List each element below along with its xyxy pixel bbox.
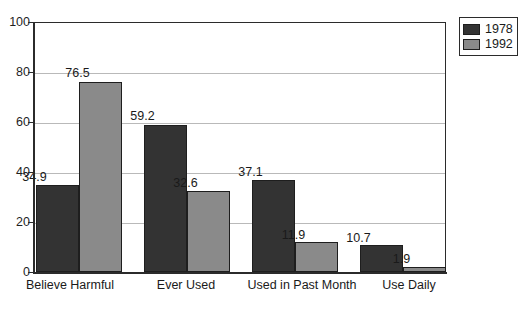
bar-ever-used-1978[interactable] <box>144 125 187 272</box>
x-axis-line <box>33 272 447 274</box>
bar-value-believe-harmful-1992: 76.5 <box>56 67 99 79</box>
y-axis: 100 80 60 40 20 0 <box>0 0 30 313</box>
bar-value-ever-used-1978: 59.2 <box>121 110 164 122</box>
bar-believe-harmful-1978[interactable] <box>36 185 79 272</box>
y-tick-label-80: 80 <box>4 66 30 78</box>
bar-value-used-in-past-month-1978: 37.1 <box>229 166 272 178</box>
y-tick-label-20: 20 <box>4 216 30 228</box>
bar-believe-harmful-1992[interactable] <box>79 82 122 272</box>
y-tick-label-100: 100 <box>4 16 30 28</box>
bar-used-in-past-month-1992[interactable] <box>295 242 338 272</box>
plot-area <box>33 22 446 273</box>
bar-value-use-daily-1992: 1.9 <box>380 253 423 265</box>
bar-ever-used-1992[interactable] <box>187 191 230 272</box>
x-category-label-believe-harmful: Believe Harmful <box>10 278 130 292</box>
bar-value-used-in-past-month-1992: 11.9 <box>272 229 315 241</box>
legend-swatch-1992-icon <box>463 39 480 50</box>
y-tick-label-0: 0 <box>4 266 30 278</box>
bar-used-in-past-month-1978[interactable] <box>252 180 295 272</box>
x-category-label-use-daily: Use Daily <box>349 278 469 292</box>
legend-swatch-1978-icon <box>463 24 480 35</box>
bar-value-use-daily-1978: 10.7 <box>337 232 380 244</box>
legend: 1978 1992 <box>459 17 518 56</box>
legend-item-1992[interactable]: 1992 <box>463 37 513 51</box>
y-tick-label-60: 60 <box>4 116 30 128</box>
x-category-label-ever-used: Ever Used <box>126 278 246 292</box>
legend-item-1978[interactable]: 1978 <box>463 22 513 36</box>
legend-label-1978: 1978 <box>485 23 513 35</box>
y-axis-line <box>33 22 35 274</box>
bar-value-ever-used-1992: 32.6 <box>164 177 207 189</box>
legend-label-1992: 1992 <box>485 38 513 50</box>
bar-chart-figure: 100 80 60 40 20 0 34.9 76.5 59.2 3 <box>0 0 530 313</box>
